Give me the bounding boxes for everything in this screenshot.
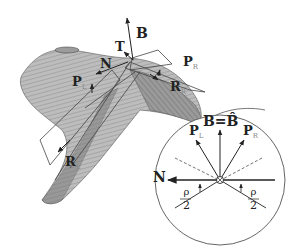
label-r-l: RL <box>65 155 80 171</box>
label-n: N <box>100 57 112 70</box>
rho-right-denominator: 2 <box>249 200 258 211</box>
rho-left-denominator: 2 <box>182 200 191 211</box>
inset-label-p-r: PR <box>243 124 258 140</box>
label-r-r: RR <box>170 80 186 96</box>
label-p-l: PL <box>72 75 86 91</box>
label-p-r: PR <box>183 55 198 71</box>
label-b: B <box>136 26 148 40</box>
inset-circle <box>155 115 285 245</box>
inset-label-p-l: PL <box>189 124 203 140</box>
rho-left-numerator: ρ <box>182 187 191 197</box>
rho-right-numerator: ρ <box>249 187 258 197</box>
label-t: T <box>115 40 125 53</box>
inset-label-n: N <box>153 170 166 184</box>
inset-title: B=B̂ <box>203 114 238 128</box>
b-vector <box>127 18 133 60</box>
